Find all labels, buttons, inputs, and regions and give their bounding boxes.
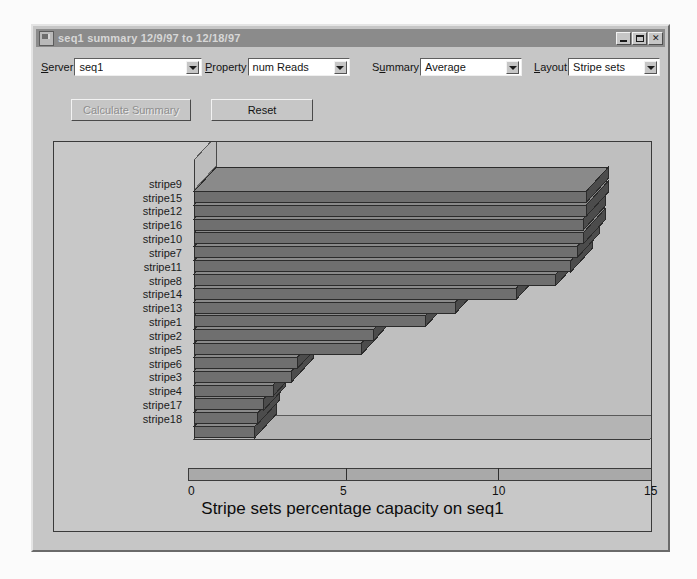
layout-value: Stripe sets [569, 61, 625, 73]
y-axis-labels: stripe9stripe15stripe12stripe16stripe10s… [54, 142, 651, 497]
app-icon [39, 31, 54, 46]
y-axis-label: stripe16 [72, 219, 182, 231]
y-axis-label: stripe11 [72, 261, 182, 273]
layout-field: Layout Stripe sets [534, 58, 660, 76]
y-axis-label: stripe6 [72, 358, 182, 370]
chevron-down-icon[interactable] [506, 61, 519, 74]
property-label: Property [205, 61, 247, 73]
y-axis-label: stripe7 [72, 247, 182, 259]
chevron-down-icon[interactable] [334, 61, 347, 74]
y-axis-label: stripe4 [72, 385, 182, 397]
calculate-summary-label: Calculate Summary [83, 104, 179, 116]
layout-dropdown[interactable]: Stripe sets [568, 58, 660, 76]
summary-label: Summary [372, 61, 419, 73]
y-axis-label: stripe1 [72, 316, 182, 328]
summary-field: Summary Average [372, 58, 522, 76]
y-axis-label: stripe5 [72, 344, 182, 356]
calculate-summary-button[interactable]: Calculate Summary [71, 99, 191, 121]
reset-button[interactable]: Reset [211, 99, 313, 121]
screenshot-root: seq1 summary 12/9/97 to 12/18/97 ✕ Serve… [0, 0, 697, 579]
property-value: num Reads [249, 61, 309, 73]
x-axis-tick-label: 5 [340, 484, 347, 498]
chevron-down-icon[interactable] [644, 61, 657, 74]
y-axis-label: stripe10 [72, 233, 182, 245]
close-button[interactable]: ✕ [648, 32, 663, 45]
x-axis-tick-label: 0 [188, 484, 195, 498]
server-field: Server seq1 [41, 58, 202, 76]
layout-label: Layout [534, 61, 567, 73]
summary-value: Average [421, 61, 466, 73]
window-title: seq1 summary 12/9/97 to 12/18/97 [58, 32, 241, 44]
y-axis-label: stripe14 [72, 288, 182, 300]
controls-toolbar: Server seq1 Property num Reads Summary A… [39, 55, 665, 81]
y-axis-label: stripe18 [72, 413, 182, 425]
y-axis-label: stripe2 [72, 330, 182, 342]
property-field: Property num Reads [205, 58, 350, 76]
y-axis-label: stripe8 [72, 275, 182, 287]
chevron-down-icon[interactable] [186, 61, 199, 74]
title-bar: seq1 summary 12/9/97 to 12/18/97 ✕ [36, 29, 665, 47]
close-icon: ✕ [649, 33, 662, 44]
maximize-button[interactable] [632, 32, 647, 45]
y-axis-label: stripe17 [72, 399, 182, 411]
server-label: Server [41, 61, 73, 73]
application-window: seq1 summary 12/9/97 to 12/18/97 ✕ Serve… [31, 24, 670, 552]
chart-title: Stripe sets percentage capacity on seq1 [54, 499, 651, 519]
y-axis-label: stripe12 [72, 205, 182, 217]
property-dropdown[interactable]: num Reads [248, 58, 350, 76]
y-axis-label: stripe13 [72, 302, 182, 314]
chart-panel: stripe9stripe15stripe12stripe16stripe10s… [53, 141, 652, 532]
server-dropdown[interactable]: seq1 [74, 58, 202, 76]
summary-dropdown[interactable]: Average [420, 58, 522, 76]
y-axis-label: stripe15 [72, 192, 182, 204]
window-controls: ✕ [616, 32, 665, 45]
x-axis-tick-label: 10 [492, 484, 505, 498]
x-axis-tick-label: 15 [644, 484, 657, 498]
minimize-button[interactable] [616, 32, 631, 45]
reset-label: Reset [248, 104, 277, 116]
chart-plot-area: stripe9stripe15stripe12stripe16stripe10s… [54, 142, 651, 497]
server-value: seq1 [75, 61, 103, 73]
y-axis-label: stripe3 [72, 371, 182, 383]
y-axis-label: stripe9 [72, 178, 182, 190]
